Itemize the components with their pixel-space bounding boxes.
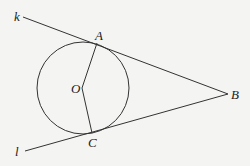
geometry-diagram: k l A O C B bbox=[0, 0, 250, 166]
diagram-canvas: k l A O C B bbox=[0, 0, 250, 166]
label-a: A bbox=[94, 28, 103, 43]
label-k: k bbox=[14, 9, 20, 24]
label-c: C bbox=[88, 135, 97, 150]
label-o: O bbox=[71, 81, 81, 96]
line-k bbox=[23, 17, 228, 94]
circle-o bbox=[37, 42, 129, 134]
segment-oa bbox=[82, 43, 97, 88]
label-l: l bbox=[15, 144, 19, 159]
segment-oc bbox=[82, 88, 92, 133]
label-b: B bbox=[231, 87, 239, 102]
